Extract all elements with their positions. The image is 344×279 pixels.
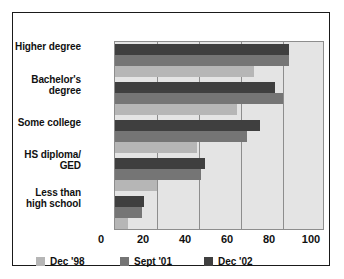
bar	[115, 82, 275, 93]
legend-swatch-icon	[120, 257, 129, 266]
category-label-line: HS diploma/	[0, 149, 81, 160]
category-label-line: Higher degree	[0, 41, 81, 52]
category-label-line: Some college	[0, 117, 81, 128]
bar	[115, 66, 254, 77]
bar	[115, 142, 197, 153]
category-label: Less thanhigh school	[0, 187, 81, 209]
bar	[115, 55, 289, 66]
category-label-line: high school	[0, 198, 81, 209]
bar	[115, 180, 157, 191]
x-tick-20: 20	[123, 233, 163, 245]
bar-group	[115, 196, 323, 229]
bar	[115, 44, 289, 55]
legend-label: Dec '02	[218, 256, 253, 267]
bar	[115, 158, 205, 169]
category-label-line: degree	[0, 85, 81, 96]
x-tick-40: 40	[165, 233, 205, 245]
x-tick-60: 60	[207, 233, 247, 245]
bar	[115, 207, 142, 218]
legend-label: Dec '98	[50, 256, 85, 267]
x-tick-80: 80	[249, 233, 289, 245]
plot-area	[114, 41, 324, 230]
figure-frame: Higher degreeBachelor'sdegreeSome colleg…	[12, 12, 330, 266]
legend-item[interactable]: Sept '01	[120, 256, 172, 267]
category-label-line: Less than	[0, 187, 81, 198]
bar-group	[115, 44, 323, 77]
bar	[115, 93, 283, 104]
legend-item[interactable]: Dec '98	[36, 256, 85, 267]
bar	[115, 131, 247, 142]
category-label: HS diploma/GED	[0, 149, 81, 171]
bar-group	[115, 158, 323, 191]
legend-swatch-icon	[204, 257, 213, 266]
bar	[115, 120, 260, 131]
bar	[115, 169, 201, 180]
x-tick-0: 0	[81, 233, 121, 245]
bar	[115, 104, 237, 115]
bar-group	[115, 120, 323, 153]
legend-label: Sept '01	[134, 256, 172, 267]
x-tick-100: 100	[291, 233, 331, 245]
category-label: Higher degree	[0, 41, 81, 52]
legend-item[interactable]: Dec '02	[204, 256, 253, 267]
category-label-line: GED	[0, 160, 81, 171]
category-label: Some college	[0, 117, 81, 128]
chart-figure: Higher degreeBachelor'sdegreeSome colleg…	[0, 0, 344, 279]
bar	[115, 218, 128, 229]
legend-swatch-icon	[36, 257, 45, 266]
bar-group	[115, 82, 323, 115]
category-label: Bachelor'sdegree	[0, 74, 81, 96]
category-label-line: Bachelor's	[0, 74, 81, 85]
bar	[115, 196, 144, 207]
